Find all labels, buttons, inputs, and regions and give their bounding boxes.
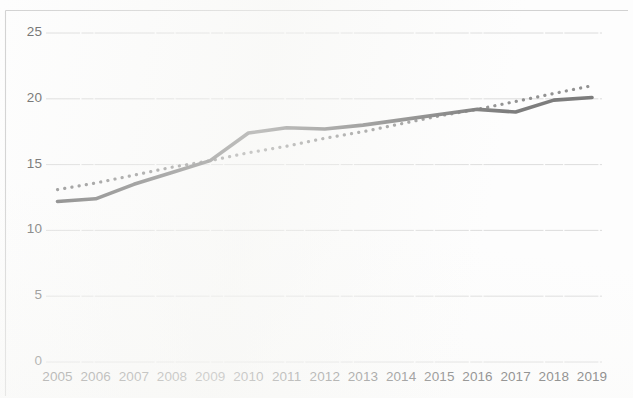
chart-figure: 2520151050 20052006200720082009201020112… <box>0 0 633 398</box>
y-tick-label: 5 <box>8 287 42 302</box>
y-tick-label: 10 <box>8 221 42 236</box>
y-tick-label: 15 <box>8 156 42 171</box>
chart-plot-area <box>0 0 633 398</box>
series-layer <box>58 86 593 202</box>
x-tick-label: 2007 <box>114 369 154 384</box>
x-tick-label: 2019 <box>572 369 612 384</box>
x-tick-label: 2017 <box>496 369 536 384</box>
y-tick-label: 25 <box>8 24 42 39</box>
x-tick-label: 2018 <box>534 369 574 384</box>
x-tick-label: 2013 <box>343 369 383 384</box>
chart-border <box>6 11 629 397</box>
x-tick-label: 2006 <box>76 369 116 384</box>
x-tick-label: 2008 <box>152 369 192 384</box>
series-trendline <box>58 86 593 190</box>
x-tick-label: 2015 <box>419 369 459 384</box>
x-tick-label: 2016 <box>458 369 498 384</box>
x-tick-label: 2005 <box>38 369 78 384</box>
x-tick-label: 2012 <box>305 369 345 384</box>
y-tick-label: 0 <box>8 353 42 368</box>
x-tick-label: 2014 <box>381 369 421 384</box>
gridlines <box>46 33 602 362</box>
x-tick-label: 2011 <box>267 369 307 384</box>
series-data-line <box>58 97 593 201</box>
x-tick-label: 2010 <box>228 369 268 384</box>
y-tick-label: 20 <box>8 90 42 105</box>
x-tick-label: 2009 <box>190 369 230 384</box>
